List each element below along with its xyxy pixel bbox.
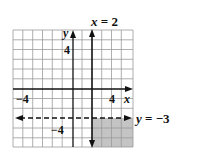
y-tick-neg4: −4 [51, 123, 64, 137]
inequality-graph: y 4 −4 −4 4 x x = 2 y = −3 [0, 0, 200, 158]
x-tick-neg4: −4 [16, 92, 29, 106]
shaded-region [92, 118, 133, 147]
x-axis-label: x [123, 92, 130, 106]
y-tick-4: 4 [64, 43, 70, 57]
y-axis-label: y [61, 26, 69, 40]
vline-equation-label: x = 2 [90, 14, 118, 29]
hline-equation-label: y = −3 [134, 111, 170, 126]
x-tick-4: 4 [109, 92, 115, 106]
